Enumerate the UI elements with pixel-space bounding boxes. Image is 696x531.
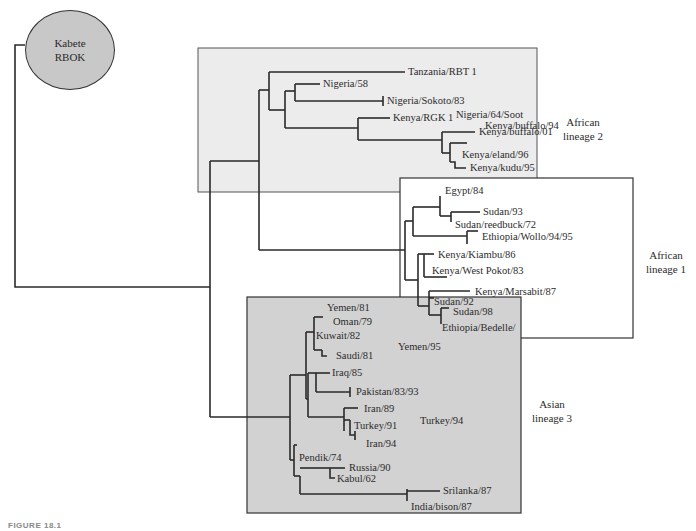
- taxon-label: Yemen/95: [398, 341, 441, 353]
- taxon-label: Kenya/West Pokot/83: [432, 265, 524, 277]
- taxon-label: Ethiopia/Wollo/94/95: [482, 231, 573, 243]
- root-node-kabete-rbok: Kabete RBOK: [25, 10, 115, 90]
- group-label-line1: African: [636, 248, 696, 262]
- taxon-label: Kabul/62: [337, 473, 376, 485]
- taxon-label: Ethiopia/Bedelle/: [442, 322, 515, 334]
- taxon-label: Saudi/81: [336, 350, 373, 362]
- group-label-asian-lineage-3: Asian lineage 3: [522, 397, 582, 425]
- taxon-label: Sudan/93: [483, 206, 523, 218]
- taxon-label: India/bison/87: [411, 501, 472, 513]
- taxon-label: Iraq/85: [332, 367, 362, 379]
- taxon-label: Kenya/Marsabit/87: [475, 286, 556, 298]
- taxon-label: Srilanka/87: [443, 485, 491, 497]
- taxon-label: Sudan/reedbuck/72: [455, 219, 536, 231]
- taxon-label: Nigeria/58: [323, 78, 368, 90]
- group-label-line2: lineage 3: [522, 411, 582, 425]
- taxon-label: Egypt/84: [445, 185, 484, 197]
- taxon-label: Kenya/eland/96: [462, 149, 528, 161]
- group-label-african-lineage-1: African lineage 1: [636, 248, 696, 276]
- taxon-label: Kenya/kudu/95: [470, 162, 535, 174]
- root-label-line2: RBOK: [55, 50, 86, 64]
- taxon-label: Kenya/buffalo/01: [479, 126, 553, 138]
- taxon-label: Tanzania/RBT 1: [408, 66, 477, 78]
- figure-caption: FIGURE 18.1: [8, 521, 62, 530]
- taxon-label: Nigeria/Sokoto/83: [387, 95, 465, 107]
- taxon-label: Turkey/91: [354, 420, 397, 432]
- taxon-label: Sudan/98: [453, 306, 493, 318]
- taxon-label: Kenya/RGK 1: [393, 112, 453, 124]
- taxon-label: Iran/94: [366, 438, 396, 450]
- taxon-label: Turkey/94: [420, 415, 463, 427]
- taxon-label: Kuwait/82: [316, 330, 360, 342]
- group-label-line2: lineage 1: [636, 262, 696, 276]
- taxon-label: Pakistan/83/93: [356, 386, 418, 398]
- phylogenetic-tree-figure: Kabete RBOK Tanzania/RBT 1 Nigeria/58 Ni…: [0, 0, 696, 531]
- group-label-line1: Asian: [522, 397, 582, 411]
- root-label-line1: Kabete: [54, 36, 85, 50]
- taxon-label: Iran/89: [364, 403, 394, 415]
- taxon-label: Yemen/81: [327, 302, 370, 314]
- group-label-line2: lineage 2: [553, 129, 613, 143]
- taxon-label: Kenya/Kiambu/86: [438, 249, 516, 261]
- group-label-line1: African: [553, 115, 613, 129]
- group-label-african-lineage-2: African lineage 2: [553, 115, 613, 143]
- taxon-label: Pendik/74: [299, 452, 342, 464]
- taxon-label: Oman/79: [333, 316, 372, 328]
